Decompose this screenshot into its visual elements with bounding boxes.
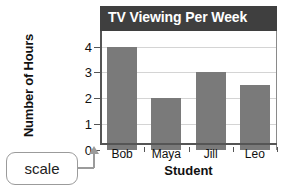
chart-title-bar: TV Viewing Per Week	[100, 6, 277, 31]
x-axis-line	[100, 143, 277, 145]
y-tick-label: 1	[85, 117, 92, 132]
x-axis-tick	[144, 147, 145, 152]
y-axis-line	[100, 31, 102, 144]
bar	[196, 72, 226, 150]
scale-callout-box[interactable]: scale	[6, 152, 78, 185]
y-tick-label: 2	[85, 91, 92, 106]
callout-arrow-icon	[89, 146, 99, 154]
x-axis-tick	[277, 147, 278, 152]
chart-block: TV Viewing Per Week 01234	[100, 6, 277, 150]
y-tick-label: 4	[85, 39, 92, 54]
bar-chart-figure: Number of Hours TV Viewing Per Week 0123…	[0, 0, 288, 192]
x-axis-tick	[189, 147, 190, 152]
y-axis-title: Number of Hours	[21, 16, 36, 156]
x-tick-label: Bob	[111, 147, 132, 161]
chart-title: TV Viewing Per Week	[108, 9, 247, 25]
x-tick-label: Maya	[152, 147, 181, 161]
x-axis-tick-labels: BobMayaJillLeo	[100, 147, 277, 163]
x-axis-title: Student	[100, 163, 277, 178]
bar	[107, 47, 137, 150]
x-axis-tick	[233, 147, 234, 152]
scale-callout-label: scale	[7, 153, 77, 184]
y-tick-label: 3	[85, 65, 92, 80]
x-tick-label: Leo	[245, 147, 265, 161]
x-tick-label: Jill	[204, 147, 218, 161]
callout-stem-line	[93, 152, 95, 168]
plot-area: 01234	[100, 31, 277, 150]
bar	[240, 85, 270, 150]
callout-connector-line	[78, 167, 94, 169]
